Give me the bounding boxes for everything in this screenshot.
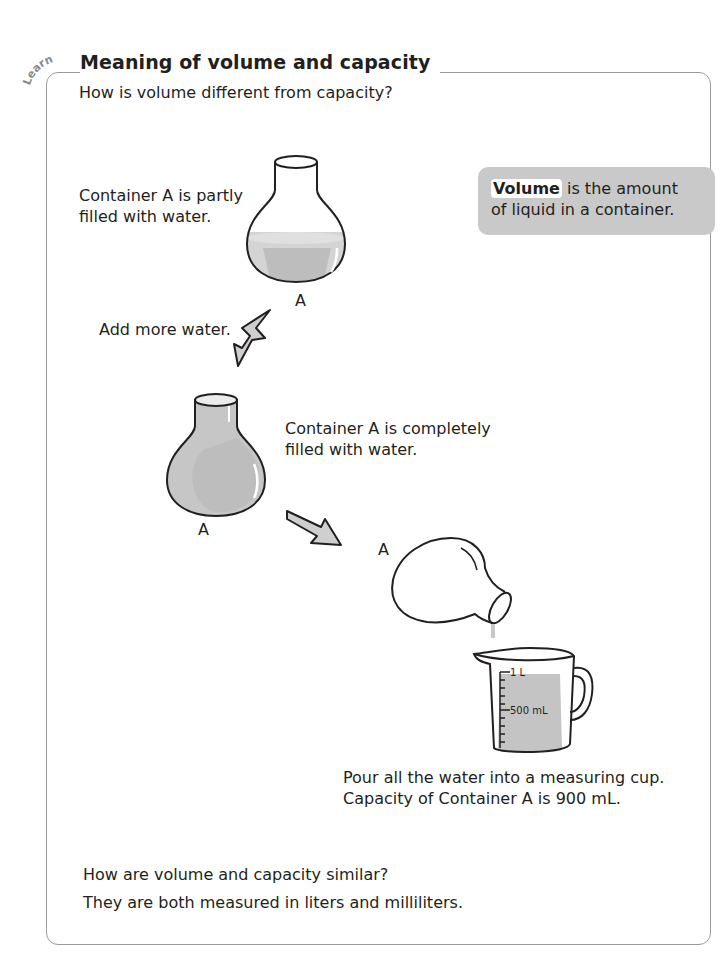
summary: How are volume and capacity similar? The… [83, 861, 463, 917]
completely-filled-line2: filled with water. [285, 439, 491, 460]
definition-box: Volume is the amount of liquid in a cont… [478, 167, 715, 235]
add-more-water-caption: Add more water. [99, 319, 231, 340]
definition-line2: of liquid in a container. [491, 199, 715, 220]
completely-filled-line1: Container A is completely [285, 418, 491, 439]
summary-answer: They are both measured in liters and mil… [83, 889, 463, 917]
partly-filled-line1: Container A is partly [79, 185, 243, 206]
flask-partly-filled-illustration [243, 152, 349, 288]
flask-pouring-illustration [385, 534, 520, 649]
definition-term: Volume [491, 179, 562, 198]
arrow-right-down-icon [285, 505, 345, 547]
pour-line2: Capacity of Container A is 900 mL. [343, 788, 664, 809]
definition-line1: is the amount [562, 179, 678, 198]
partly-filled-line2: filled with water. [79, 206, 243, 227]
completely-filled-caption: Container A is completely filled with wa… [285, 418, 491, 460]
container-a-label: A [295, 291, 306, 310]
container-a-label-full: A [198, 520, 209, 539]
partly-filled-caption: Container A is partly filled with water. [79, 185, 243, 227]
section-title: Meaning of volume and capacity [80, 51, 440, 73]
intro-question: How is volume different from capacity? [79, 82, 393, 103]
flask-full-illustration [163, 390, 269, 522]
pour-caption: Pour all the water into a measuring cup.… [343, 767, 664, 809]
pour-line1: Pour all the water into a measuring cup. [343, 767, 664, 788]
cup-mark-500ml: 500 mL [510, 705, 548, 716]
arrow-down-icon [230, 308, 276, 370]
cup-mark-1l: 1 L [510, 667, 526, 678]
measuring-cup-illustration: 1 L 500 mL [470, 638, 595, 753]
summary-question: How are volume and capacity similar? [83, 861, 463, 889]
